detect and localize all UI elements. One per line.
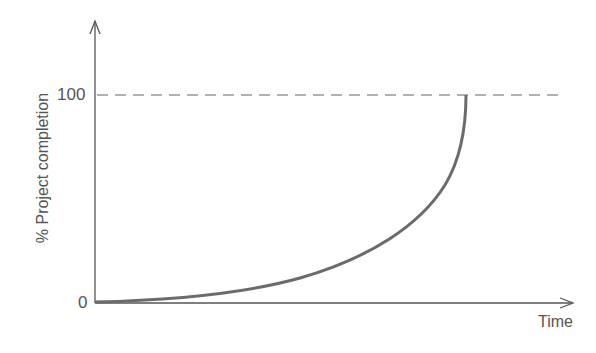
y-tick-0: 0 bbox=[78, 293, 87, 313]
chart-canvas bbox=[0, 0, 596, 353]
completion-curve bbox=[95, 95, 466, 302]
x-axis-label: Time bbox=[538, 313, 573, 331]
y-axis-label: % Project completion bbox=[34, 93, 52, 243]
y-tick-100: 100 bbox=[57, 85, 85, 105]
